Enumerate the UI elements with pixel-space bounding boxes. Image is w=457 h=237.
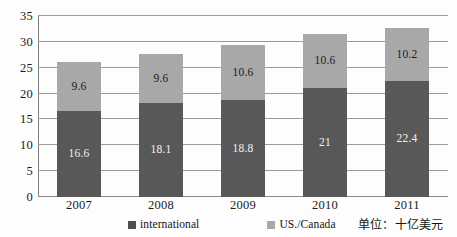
bar-segment-international[interactable]: 16.6 (57, 111, 101, 197)
y-tick-label: 20 (3, 87, 33, 100)
bar-value-label: 10.6 (233, 67, 254, 79)
bar-segment-international[interactable]: 18.1 (139, 103, 183, 197)
x-tick-label: 2010 (290, 199, 360, 213)
bar-value-label: 9.6 (72, 81, 87, 93)
bar-value-label: 18.1 (151, 144, 172, 156)
y-tick-label: 0 (3, 191, 33, 204)
bar-value-label: 9.6 (154, 73, 169, 85)
legend-swatch-icon (128, 221, 136, 229)
bar-group[interactable]: 22.410.2 (385, 16, 429, 197)
bar-segment-international[interactable]: 21 (303, 88, 347, 197)
bar-segment-us-canada[interactable]: 10.6 (221, 45, 265, 100)
bar-value-label: 22.4 (397, 133, 418, 145)
bar-segment-international[interactable]: 22.4 (385, 81, 429, 197)
x-tick-label: 2007 (44, 199, 114, 213)
legend-swatch-icon (267, 221, 275, 229)
y-tick-label: 30 (3, 36, 33, 49)
legend-label: US./Canada (279, 219, 335, 231)
bar-value-label: 21 (319, 137, 331, 149)
y-tick-label: 10 (3, 139, 33, 152)
bar-group[interactable]: 16.69.6 (57, 16, 101, 197)
bar-value-label: 16.6 (69, 148, 90, 160)
bar-segment-us-canada[interactable]: 9.6 (139, 54, 183, 104)
chart-figure: 35 30 25 20 15 10 5 0 16.69.618.19.618.8… (0, 0, 457, 237)
legend-label: international (140, 219, 199, 231)
y-tick-label: 15 (3, 113, 33, 126)
plot-area: 16.69.618.19.618.810.62110.622.410.2 (38, 16, 448, 197)
legend-item-us-canada: US./Canada (267, 219, 335, 231)
bar-value-label: 10.2 (397, 49, 418, 61)
y-tick-label: 35 (3, 10, 33, 23)
bar-segment-international[interactable]: 18.8 (221, 100, 265, 197)
y-tick-label: 5 (3, 165, 33, 178)
unit-note: 单位：十亿美元 (358, 219, 444, 231)
y-axis: 35 30 25 20 15 10 5 0 (0, 16, 33, 197)
bar-group[interactable]: 18.810.6 (221, 16, 265, 197)
x-tick-label: 2011 (372, 199, 442, 213)
bar-segment-us-canada[interactable]: 9.6 (57, 62, 101, 112)
bar-value-label: 18.8 (233, 143, 254, 155)
chart-legend: international US./Canada 单位：十亿美元 (0, 216, 457, 234)
x-tick-label: 2009 (208, 199, 278, 213)
bar-segment-us-canada[interactable]: 10.6 (303, 34, 347, 89)
x-axis: 20072008200920102011 (38, 199, 448, 217)
bar-group[interactable]: 18.19.6 (139, 16, 183, 197)
legend-item-international: international (128, 219, 199, 231)
bar-value-label: 10.6 (315, 55, 336, 67)
x-tick-label: 2008 (126, 199, 196, 213)
bar-group[interactable]: 2110.6 (303, 16, 347, 197)
bar-segment-us-canada[interactable]: 10.2 (385, 28, 429, 81)
y-tick-label: 25 (3, 61, 33, 74)
